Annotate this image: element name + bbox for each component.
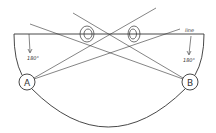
node-a: A	[19, 74, 35, 90]
sightline-a-2	[34, 29, 180, 79]
bottom-arc	[32, 89, 185, 127]
diagram-svg: 180° 180° line A B	[0, 0, 216, 133]
line-label: line	[185, 27, 194, 33]
left-side-arc	[14, 34, 22, 75]
left-angle-label: 180°	[27, 55, 40, 61]
sightline-b-2	[30, 24, 183, 79]
node-a-label: A	[24, 78, 31, 88]
sightline-a-1	[34, 8, 156, 78]
right-angle-arrow-icon	[187, 36, 191, 55]
node-b: B	[182, 74, 198, 90]
right-angle-label: 180°	[183, 57, 196, 63]
node-b-label: B	[187, 78, 193, 88]
right-side-arc	[195, 34, 204, 75]
left-angle-arrow-icon	[28, 34, 32, 53]
diagram-canvas: 180° 180° line A B	[0, 0, 216, 133]
